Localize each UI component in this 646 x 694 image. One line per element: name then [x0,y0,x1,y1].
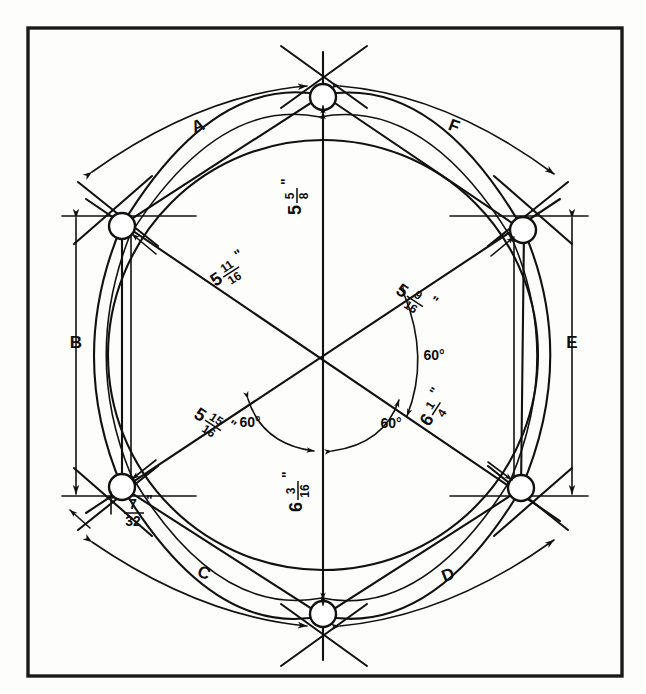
arc-label-A: A [189,115,207,137]
arc-label-E: E [566,333,577,352]
angle-label-bottom-left: 60° [239,414,260,430]
angle-label-right: 60° [423,347,444,363]
dimension-lower-right: 6 1 4 " [410,384,458,433]
technical-drawing-figure: A B C D E F 5 5 8 " 5 11 16 " 5 9 16 " 5… [0,0,646,694]
dimension-bottom-vertical: 6 3 16 " [279,471,312,512]
dimension-upper-right: 5 9 16 " [389,274,441,324]
dim-denominator: 8 [297,192,311,199]
dim-inch-mark: " [146,492,153,508]
arc-label-D: D [439,564,457,586]
angle-label-bottom-right: 60° [380,415,401,431]
hole-upper-right [510,217,536,243]
hole-upper-left [109,213,135,239]
hole-lower-right [508,475,534,501]
arc-label-F: F [446,115,463,136]
dim-numerator: 3 [284,487,298,494]
dim-denominator: 16 [298,484,312,498]
dimension-top-vertical: 5 5 8 " [278,178,311,215]
dim-inch-mark: " [279,471,295,478]
dimension-upper-left: 5 11 16 " [203,246,255,296]
dim-inch-mark: " [426,384,443,398]
dim-inch-mark: " [231,246,245,263]
drawing-frame [28,28,622,676]
dim-denominator: 32 [125,513,141,529]
dim-inch-mark: " [278,178,294,185]
dim-inch-mark: " [427,292,441,309]
dim-whole: 6 [286,502,306,512]
bolt-circle-drawing: A B C D E F 5 5 8 " 5 11 16 " 5 9 16 " 5… [0,0,646,694]
dim-whole: 5 [285,205,305,215]
dim-denominator: 4 [434,406,450,419]
dim-numerator: 7 [129,496,137,512]
extension-lines [62,216,588,496]
dim-numerator: 5 [283,192,297,199]
centerlines [86,52,560,660]
arc-label-B: B [70,333,82,352]
